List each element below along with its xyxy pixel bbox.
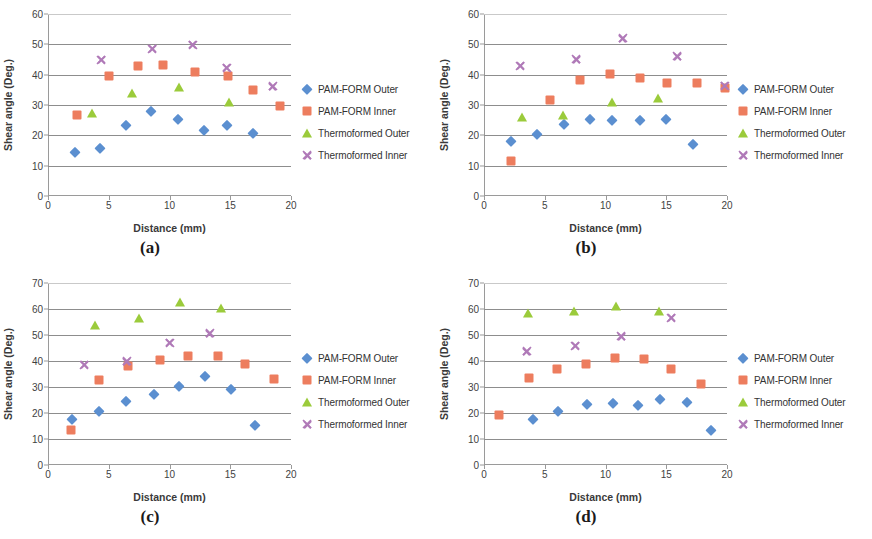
legend-item[interactable]: Thermoformed Inner xyxy=(736,413,846,435)
chart-legend: PAM-FORM OuterPAM-FORM InnerThermoformed… xyxy=(736,347,846,435)
gridline xyxy=(48,335,291,336)
y-axis-label: Shear angle (Deg.) xyxy=(438,40,452,170)
legend-item[interactable]: Thermoformed Inner xyxy=(300,413,410,435)
gridline xyxy=(48,135,291,136)
y-tick-mark xyxy=(44,309,48,310)
y-tick-mark xyxy=(480,74,484,75)
x-axis-label: Distance (mm) xyxy=(48,222,291,234)
cross-marker xyxy=(303,151,312,160)
x-tick-label: 20 xyxy=(285,469,296,480)
legend-item[interactable]: Thermoformed Outer xyxy=(736,391,846,413)
legend-item[interactable]: PAM-FORM Inner xyxy=(736,100,846,122)
x-tick-label: 5 xyxy=(542,200,548,211)
legend-triangle-icon xyxy=(736,126,750,140)
y-tick-label: 40 xyxy=(468,356,479,367)
x-tick-label: 10 xyxy=(600,469,611,480)
y-tick-mark xyxy=(44,413,48,414)
legend-item[interactable]: PAM-FORM Outer xyxy=(300,78,410,100)
plot-area: 01020304050607005101520 xyxy=(484,283,727,465)
y-tick-label: 50 xyxy=(32,39,43,50)
gridline xyxy=(484,105,727,106)
gridline xyxy=(48,309,291,310)
y-tick-label: 40 xyxy=(32,69,43,80)
gridline xyxy=(48,387,291,388)
y-tick-mark xyxy=(480,105,484,106)
x-tick-label: 10 xyxy=(164,469,175,480)
legend-label: PAM-FORM Inner xyxy=(318,106,396,117)
legend-item[interactable]: Thermoformed Outer xyxy=(736,122,846,144)
y-tick-mark xyxy=(480,283,484,284)
legend-label: Thermoformed Outer xyxy=(318,397,410,408)
legend-cross-icon xyxy=(736,417,750,431)
y-tick-mark xyxy=(44,165,48,166)
chart-a: Shear angle (Deg.)010203040506005101520D… xyxy=(0,0,436,240)
y-tick-label: 20 xyxy=(32,130,43,141)
diamond-marker xyxy=(302,353,313,364)
y-tick-label: 0 xyxy=(473,460,479,471)
gridline xyxy=(484,361,727,362)
gridline xyxy=(48,14,291,15)
legend-item[interactable]: PAM-FORM Inner xyxy=(300,369,410,391)
legend-item[interactable]: PAM-FORM Outer xyxy=(736,78,846,100)
y-tick-mark xyxy=(480,361,484,362)
y-tick-label: 10 xyxy=(468,160,479,171)
chart-b: Shear angle (Deg.)010203040506005101520D… xyxy=(436,0,872,240)
y-tick-mark xyxy=(480,135,484,136)
gridline xyxy=(48,105,291,106)
legend-label: PAM-FORM Inner xyxy=(754,106,832,117)
legend-item[interactable]: Thermoformed Outer xyxy=(300,122,410,144)
y-tick-mark xyxy=(480,335,484,336)
y-tick-label: 70 xyxy=(468,278,479,289)
x-tick-label: 20 xyxy=(721,200,732,211)
legend-label: PAM-FORM Inner xyxy=(318,375,396,386)
diamond-marker xyxy=(738,353,749,364)
x-tick-label: 15 xyxy=(661,469,672,480)
y-tick-label: 10 xyxy=(468,434,479,445)
legend-label: Thermoformed Outer xyxy=(754,397,846,408)
y-tick-label: 30 xyxy=(468,382,479,393)
y-tick-mark xyxy=(480,413,484,414)
legend-label: PAM-FORM Outer xyxy=(754,353,834,364)
triangle-marker xyxy=(302,398,312,407)
legend-label: Thermoformed Inner xyxy=(318,419,407,430)
chart-d: Shear angle (Deg.)0102030405060700510152… xyxy=(436,269,872,509)
y-tick-mark xyxy=(44,44,48,45)
legend-diamond-icon xyxy=(300,351,314,365)
y-tick-label: 40 xyxy=(468,69,479,80)
x-tick-label: 10 xyxy=(600,200,611,211)
x-tick-label: 20 xyxy=(285,200,296,211)
plot-frame xyxy=(48,283,291,465)
legend-square-icon xyxy=(736,104,750,118)
y-tick-mark xyxy=(480,44,484,45)
x-tick-label: 0 xyxy=(45,200,51,211)
triangle-marker xyxy=(738,129,748,138)
legend-item[interactable]: PAM-FORM Outer xyxy=(300,347,410,369)
y-tick-label: 10 xyxy=(32,434,43,445)
y-tick-mark xyxy=(44,283,48,284)
legend-item[interactable]: Thermoformed Inner xyxy=(736,144,846,166)
legend-square-icon xyxy=(736,373,750,387)
y-tick-label: 30 xyxy=(32,382,43,393)
square-marker xyxy=(303,107,312,116)
chart-panel-b: Shear angle (Deg.)010203040506005101520D… xyxy=(436,0,872,269)
diamond-marker xyxy=(302,84,313,95)
chart-legend: PAM-FORM OuterPAM-FORM InnerThermoformed… xyxy=(736,78,846,166)
x-tick-label: 0 xyxy=(481,200,487,211)
y-tick-label: 50 xyxy=(468,330,479,341)
y-tick-label: 60 xyxy=(32,9,43,20)
y-tick-mark xyxy=(44,387,48,388)
gridline xyxy=(48,283,291,284)
figure-shear-angle-comparison: Shear angle (Deg.)010203040506005101520D… xyxy=(0,0,872,539)
gridline xyxy=(48,44,291,45)
legend-label: Thermoformed Outer xyxy=(754,128,846,139)
legend-item[interactable]: PAM-FORM Inner xyxy=(300,100,410,122)
legend-item[interactable]: PAM-FORM Outer xyxy=(736,347,846,369)
y-tick-label: 60 xyxy=(468,304,479,315)
legend-item[interactable]: Thermoformed Inner xyxy=(300,144,410,166)
chart-panel-a: Shear angle (Deg.)010203040506005101520D… xyxy=(0,0,436,269)
legend-item[interactable]: Thermoformed Outer xyxy=(300,391,410,413)
triangle-marker xyxy=(302,129,312,138)
legend-item[interactable]: PAM-FORM Inner xyxy=(736,369,846,391)
cross-marker xyxy=(303,420,312,429)
y-axis-label: Shear angle (Deg.) xyxy=(438,309,452,439)
